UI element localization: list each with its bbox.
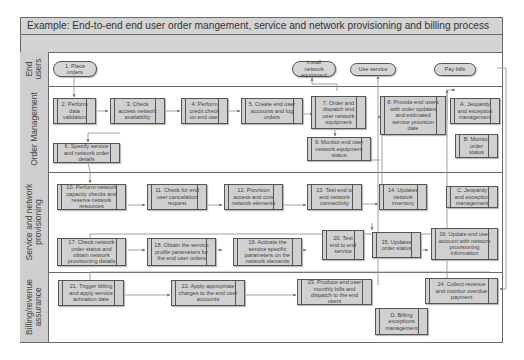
- step-d-billing-exceptions: D. Billing exceptions management: [375, 308, 428, 335]
- step-9-monitor-equipment-status: 9. Monitor end user network equipment st…: [307, 137, 371, 161]
- step-8-provide-order-updates: 8. Provide end users with order updates …: [380, 96, 446, 135]
- step-7-order-dispatch-equipment: 7. Order and dispatch end user network e…: [311, 96, 366, 129]
- step-18-obtain-service-profile: 18. Obtain the service profile parameter…: [147, 238, 216, 266]
- step-14-update-network-inventory: 14. Updates network inventory: [379, 184, 427, 210]
- step-22-apply-charges: 22. Apply appropriate charges to the end…: [171, 280, 245, 306]
- terminal-use-service: Use service: [350, 63, 396, 76]
- step-11-cancelation-request: 11. Check for end user cancelation reque…: [147, 184, 207, 210]
- step-4-credit-check: 4. Perform credit check on end user: [181, 98, 228, 124]
- step-10-network-capacity-checks: 10. Perform network capacity checks and …: [57, 184, 126, 210]
- lane-label: Billing/revenue assurance: [20, 272, 49, 342]
- step-17-check-network-order-status: 17. Check network order status and obtai…: [57, 238, 126, 266]
- header-sub-bar: [20, 34, 503, 53]
- step-20-test-end-to-end-service: 20. Test end to end service: [322, 230, 364, 260]
- step-21-trigger-billing: 21. Trigger billing and apply service ac…: [58, 280, 124, 306]
- step-2-data-validation: 2. Perform data validation: [53, 98, 96, 124]
- step-3-check-network-availability: 3. Check access network availability: [110, 98, 165, 124]
- step-c-jeopardy-management: C. Jeopardy and exception management: [446, 186, 498, 208]
- step-19-activate-service-parameters: 19. Activate the service specific parame…: [233, 238, 302, 266]
- lane-label-text: Service and network provisioning: [25, 177, 43, 267]
- terminal-install-network-equipment: Install network equipment: [292, 61, 336, 77]
- lane-label-text: End users: [25, 54, 43, 84]
- step-24-collect-revenue: 24. Collect revenue and monitor overdue …: [425, 278, 498, 304]
- step-a-jeopardy-management: A. Jeopardy and exception management: [450, 98, 500, 124]
- lane-label-text: Order Management: [30, 92, 39, 166]
- lane-label: Order Management: [20, 86, 49, 172]
- diagram-title: Example: End-to-end end user order mange…: [20, 17, 503, 35]
- step-15-update-order-status: 15. Updates order status: [372, 232, 421, 258]
- step-12-provision-network-elements: 12. Provision access and core network el…: [224, 184, 283, 210]
- lane-label-text: Billing/revenue assurance: [25, 274, 43, 340]
- step-6-specify-order-details: 6. Specify service and network order det…: [53, 143, 120, 163]
- step-23-produce-monthly-bills: 23. Produce end user monthly bills and d…: [297, 279, 372, 305]
- step-b-monitor-order-status: B. Monitor order status: [455, 134, 498, 158]
- step-5-create-accounts: 5. Create end user accounts and log orde…: [241, 98, 303, 124]
- terminal-place-orders: 1. Place orders: [53, 61, 97, 77]
- lane-label: End users: [20, 52, 49, 86]
- lane-label: Service and network provisioning: [20, 172, 49, 272]
- step-16-update-user-account: 16. Update end user account with network…: [431, 228, 498, 260]
- step-13-test-network-connectivity: 13. Test end to end network connectivity: [307, 184, 362, 210]
- terminal-pay-bills: Pay bills: [434, 63, 476, 76]
